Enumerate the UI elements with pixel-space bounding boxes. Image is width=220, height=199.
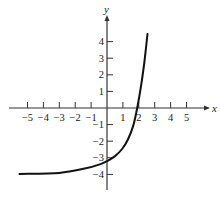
y-tick-label: 1 bbox=[99, 86, 104, 97]
x-tick-label: 4 bbox=[168, 112, 174, 123]
x-tick-label: −2 bbox=[70, 112, 81, 123]
y-tick-label: −3 bbox=[93, 152, 104, 163]
x-tick-label: 1 bbox=[120, 112, 125, 123]
axes bbox=[9, 18, 207, 190]
x-tick-label: 5 bbox=[184, 112, 189, 123]
y-tick-label: 3 bbox=[99, 53, 104, 64]
y-tick-label: 2 bbox=[99, 69, 104, 80]
y-tick-label: −2 bbox=[93, 136, 104, 147]
x-tick-label: −3 bbox=[54, 112, 65, 123]
x-tick-label: −5 bbox=[22, 112, 33, 123]
x-tick-label: 3 bbox=[152, 112, 157, 123]
x-axis-label: x bbox=[211, 102, 217, 114]
x-tick-label: −4 bbox=[38, 112, 50, 123]
y-axis-arrow-icon bbox=[105, 15, 110, 21]
y-tick-label: 4 bbox=[99, 36, 105, 47]
exponential-curve bbox=[20, 34, 148, 174]
exponential-graph: −5−4−3−2−112345−4−3−2−11234 x y bbox=[0, 0, 220, 199]
x-axis-arrow-icon bbox=[204, 106, 210, 111]
y-tick-label: −4 bbox=[93, 169, 105, 180]
y-tick-label: −1 bbox=[93, 119, 104, 130]
y-axis-label: y bbox=[103, 3, 109, 15]
